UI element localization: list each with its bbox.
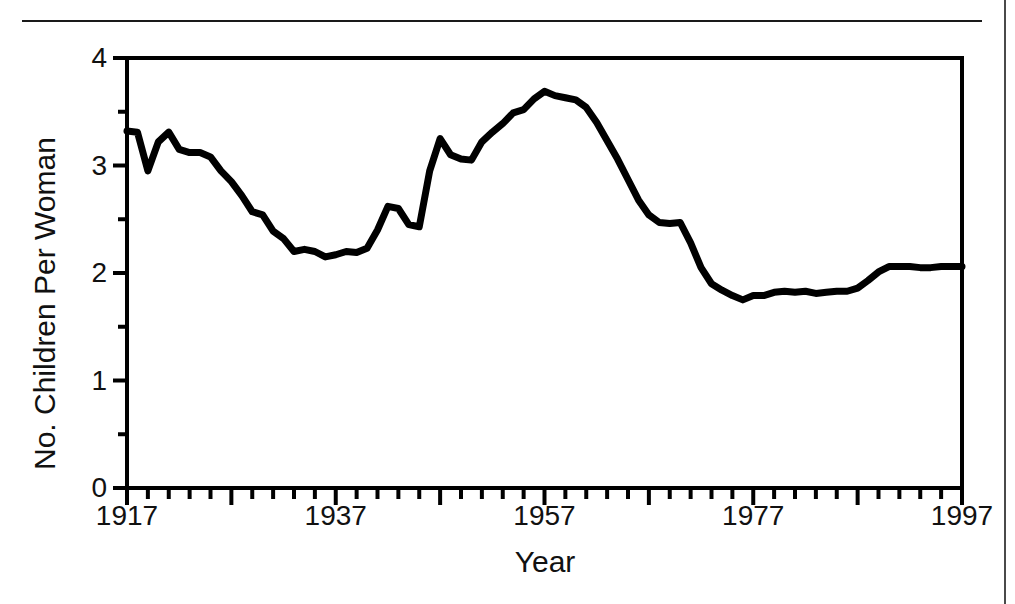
x-tick-label: 1917 bbox=[96, 500, 158, 532]
y-tick-label: 3 bbox=[61, 150, 107, 182]
x-tick-label: 1937 bbox=[305, 500, 367, 532]
x-tick-label: 1997 bbox=[931, 500, 993, 532]
y-tick-label: 0 bbox=[61, 472, 107, 504]
y-tick-label: 4 bbox=[61, 42, 107, 74]
y-tick-label: 1 bbox=[61, 365, 107, 397]
x-tick-label: 1957 bbox=[513, 500, 575, 532]
y-axis-ticks bbox=[113, 58, 127, 488]
y-axis-title: No. Children Per Woman bbox=[28, 137, 62, 470]
plot-frame bbox=[127, 58, 962, 488]
axes-frame bbox=[127, 58, 962, 488]
x-axis-title: Year bbox=[0, 545, 1015, 579]
series-line-total-fertility-rate bbox=[127, 91, 962, 300]
data-series-layer bbox=[127, 91, 962, 300]
fertility-rate-figure: No. Children Per Woman Year 191719371957… bbox=[0, 0, 1015, 604]
x-tick-label: 1977 bbox=[722, 500, 784, 532]
y-tick-label: 2 bbox=[61, 257, 107, 289]
